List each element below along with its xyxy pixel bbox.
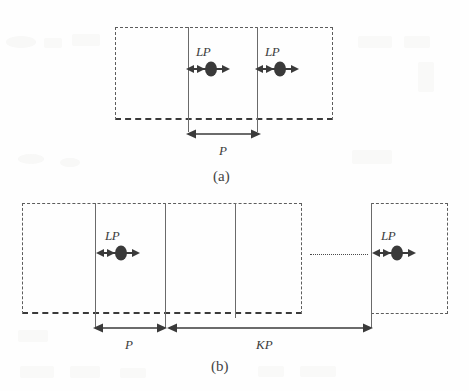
panel-b-period-line-3: [235, 203, 236, 318]
panel-b-dashed-region-main: [22, 203, 302, 314]
panel-b-caption: (b): [211, 358, 229, 375]
panel-b-dimension-P: P: [93, 320, 167, 336]
panel-b-lp-marker-1: [96, 245, 140, 261]
panel-b-dimension-KP: KP: [167, 320, 373, 336]
panel-b-dimension-label-KP: KP: [256, 337, 273, 353]
panel-b: LP LP: [0, 0, 469, 391]
panel-b-period-line-last: [371, 203, 372, 328]
panel-b-lp-label-1: LP: [105, 228, 119, 244]
panel-b-dimension-label-P: P: [125, 337, 133, 353]
figure-container: LP LP: [0, 0, 469, 391]
panel-b-lp-label-last: LP: [381, 228, 395, 244]
panel-b-continuation-dots: [310, 254, 368, 255]
panel-b-period-line-2: [165, 203, 166, 328]
panel-b-lp-marker-last: [372, 245, 416, 261]
panel-b-period-line-1: [95, 203, 96, 328]
